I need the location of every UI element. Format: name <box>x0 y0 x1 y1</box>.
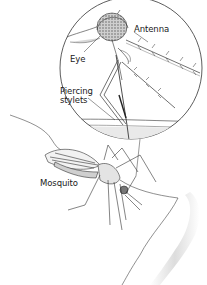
skin-outline <box>10 115 178 285</box>
skin-shading <box>150 192 200 285</box>
magnified-inset <box>55 0 207 140</box>
label-piercing-stylets-line2: stylets <box>60 96 87 105</box>
label-eye: Eye <box>70 55 85 64</box>
label-antenna: Antenna <box>134 25 169 34</box>
illustration <box>0 0 207 285</box>
connector-line <box>136 139 140 176</box>
label-mosquito: Mosquito <box>40 179 78 188</box>
mosquito-diagram: Antenna Eye Piercing stylets Mosquito <box>0 0 207 285</box>
